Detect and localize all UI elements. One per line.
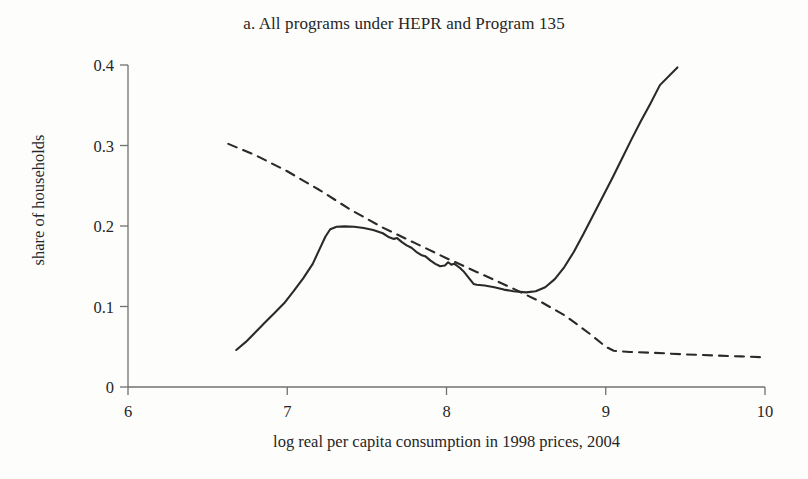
series-line-solid-curve xyxy=(236,67,677,350)
data-series xyxy=(228,67,763,357)
x-tick-label: 10 xyxy=(757,402,774,421)
x-tick-label: 7 xyxy=(283,402,291,421)
x-tick-label: 9 xyxy=(602,402,610,421)
y-tick-label: 0.4 xyxy=(93,56,114,75)
axis-tick-labels: 67891000.10.20.30.4 xyxy=(93,56,773,421)
axes xyxy=(128,65,765,387)
chart-figure: a. All programs under HEPR and Program 1… xyxy=(0,0,808,479)
y-tick-label: 0.1 xyxy=(93,298,114,317)
plot-area: 67891000.10.20.30.4 xyxy=(0,0,808,479)
y-tick-label: 0.2 xyxy=(93,217,114,236)
axis-ticks xyxy=(120,65,765,395)
x-tick-label: 8 xyxy=(442,402,450,421)
x-tick-label: 6 xyxy=(124,402,132,421)
y-tick-label: 0 xyxy=(106,378,114,397)
y-tick-label: 0.3 xyxy=(93,137,114,156)
series-line-dashed-curve xyxy=(228,144,763,357)
